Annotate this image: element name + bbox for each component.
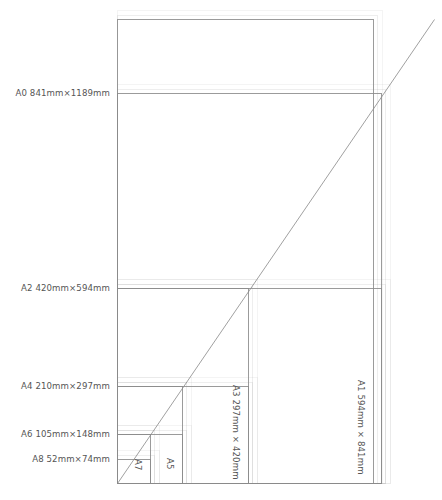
ghost-rect-A2-1 xyxy=(118,280,391,484)
label-a6: A6 105mm×148mm xyxy=(21,429,110,439)
rect-A1 xyxy=(118,20,374,484)
ghost-rect-A2-0 xyxy=(118,285,386,484)
rect-A2 xyxy=(118,289,382,484)
label-a4: A4 210mm×297mm xyxy=(21,381,110,391)
nested-rectangles-svg xyxy=(0,0,442,500)
label-a5: A5 xyxy=(165,458,175,470)
ghost-rect-A1-0 xyxy=(118,16,378,484)
label-a8: A8 52mm×74mm xyxy=(32,454,110,464)
ghost-rect-A1-1 xyxy=(118,11,383,484)
ghost-rect-A6-0 xyxy=(118,431,187,484)
label-a1: A1 594mm × 841mm xyxy=(356,380,366,475)
label-a7: A7 xyxy=(133,459,143,471)
label-a2: A2 420mm×594mm xyxy=(21,283,110,293)
label-a0: A0 841mm×1189mm xyxy=(15,88,110,98)
paper-size-diagram: A0 841mm×1189mm A2 420mm×594mm A4 210mm×… xyxy=(0,0,442,500)
diagonal-line xyxy=(118,20,435,484)
label-a3: A3 297mm × 420mm xyxy=(231,385,241,480)
